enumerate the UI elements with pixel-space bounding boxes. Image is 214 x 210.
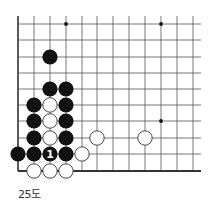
black-stone — [26, 97, 41, 112]
diagram-caption: 25도 — [18, 185, 41, 201]
black-stone — [10, 146, 25, 161]
stones-layer: 1 — [10, 49, 152, 178]
white-stone — [75, 147, 89, 161]
black-stone — [42, 81, 57, 96]
white-stone — [138, 131, 152, 145]
black-stone: 1 — [42, 146, 57, 161]
star-point-icon — [159, 119, 163, 123]
white-stone — [43, 114, 57, 128]
black-stone — [26, 113, 41, 128]
move-number-label: 1 — [46, 148, 54, 161]
white-stone — [43, 98, 57, 112]
go-board-diagram: 1 — [0, 0, 214, 210]
black-stone — [58, 146, 73, 161]
black-stone — [58, 113, 73, 128]
black-stone — [42, 49, 57, 64]
black-stone — [58, 130, 73, 145]
black-stone — [58, 81, 73, 96]
white-stone — [43, 164, 57, 178]
black-stone — [26, 146, 41, 161]
star-point-icon — [159, 22, 163, 26]
black-stone — [26, 130, 41, 145]
white-stone — [59, 164, 73, 178]
white-stone — [90, 131, 104, 145]
white-stone — [43, 131, 57, 145]
black-stone — [58, 97, 73, 112]
star-points — [64, 22, 163, 123]
star-point-icon — [64, 22, 68, 26]
white-stone — [27, 164, 41, 178]
